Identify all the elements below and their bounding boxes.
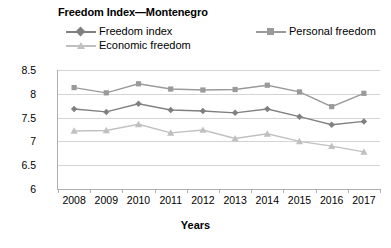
data-point — [329, 104, 334, 109]
square-marker-icon — [267, 28, 274, 35]
x-tick-label: 2012 — [186, 194, 220, 206]
series-line-personal-freedom — [74, 84, 364, 107]
data-point — [135, 101, 142, 108]
x-tick-label: 2015 — [283, 194, 317, 206]
legend-label-freedom-index: Freedom index — [99, 26, 172, 37]
x-tick-mark — [122, 189, 123, 193]
chart-title: Freedom Index—Montenegro — [58, 6, 208, 18]
x-tick-label: 2016 — [315, 194, 349, 206]
x-tick-mark — [251, 189, 252, 193]
data-point — [328, 121, 335, 128]
data-point — [167, 107, 174, 114]
y-tick-label: 8 — [16, 88, 36, 100]
data-point — [361, 91, 366, 96]
legend-item-economic-freedom[interactable]: Economic freedom — [66, 40, 191, 51]
y-tick-label: 6.5 — [16, 159, 36, 171]
data-point — [297, 89, 302, 94]
legend-marker-triangle-icon — [66, 40, 96, 51]
diamond-marker-icon — [76, 27, 86, 37]
x-tick-mark — [283, 189, 284, 193]
data-point — [72, 85, 77, 90]
data-point — [265, 83, 270, 88]
x-tick-label: 2014 — [250, 194, 284, 206]
data-point — [135, 121, 142, 127]
data-point — [264, 106, 271, 113]
x-tick-mark — [348, 189, 349, 193]
x-tick-label: 2010 — [122, 194, 156, 206]
legend-item-personal-freedom[interactable]: Personal freedom — [256, 26, 376, 37]
data-point — [200, 108, 207, 115]
legend-label-economic-freedom: Economic freedom — [99, 40, 191, 51]
y-tick-label: 6 — [16, 183, 36, 195]
series-line-freedom-index — [74, 104, 364, 125]
y-tick-label: 7 — [16, 135, 36, 147]
x-tick-mark — [187, 189, 188, 193]
x-tick-mark — [155, 189, 156, 193]
data-point — [136, 81, 141, 86]
legend-marker-square-icon — [256, 26, 286, 37]
series-layer — [58, 70, 380, 189]
legend-item-freedom-index[interactable]: Freedom index — [66, 26, 172, 37]
y-tick-label: 8.5 — [16, 64, 36, 76]
data-point — [232, 110, 239, 117]
x-tick-label: 2008 — [57, 194, 91, 206]
data-point — [264, 130, 271, 136]
legend-marker-diamond-icon — [66, 26, 96, 37]
plot-area: 66.577.588.5 200820092010201120122013201… — [57, 70, 380, 190]
data-point — [103, 109, 110, 116]
data-point — [361, 118, 368, 125]
data-point — [296, 113, 303, 120]
x-tick-label: 2013 — [218, 194, 252, 206]
x-tick-mark — [90, 189, 91, 193]
data-point — [233, 87, 238, 92]
y-tick-label: 7.5 — [16, 112, 36, 124]
data-point — [168, 86, 173, 91]
chart-container: Freedom Index—Montenegro Freedom index P… — [0, 0, 391, 248]
data-point — [104, 90, 109, 95]
x-tick-mark — [219, 189, 220, 193]
legend-label-personal-freedom: Personal freedom — [289, 26, 376, 37]
data-point — [71, 106, 78, 113]
x-axis-title: Years — [0, 219, 391, 231]
chart-legend: Freedom index Personal freedom Economic … — [58, 26, 388, 56]
triangle-marker-icon — [77, 42, 85, 49]
x-tick-mark — [316, 189, 317, 193]
x-tick-mark — [380, 189, 381, 193]
x-tick-mark — [58, 189, 59, 193]
x-tick-label: 2011 — [154, 194, 188, 206]
x-tick-label: 2009 — [89, 194, 123, 206]
series-line-economic-freedom — [74, 124, 364, 152]
data-point — [200, 87, 205, 92]
x-tick-label: 2017 — [347, 194, 381, 206]
